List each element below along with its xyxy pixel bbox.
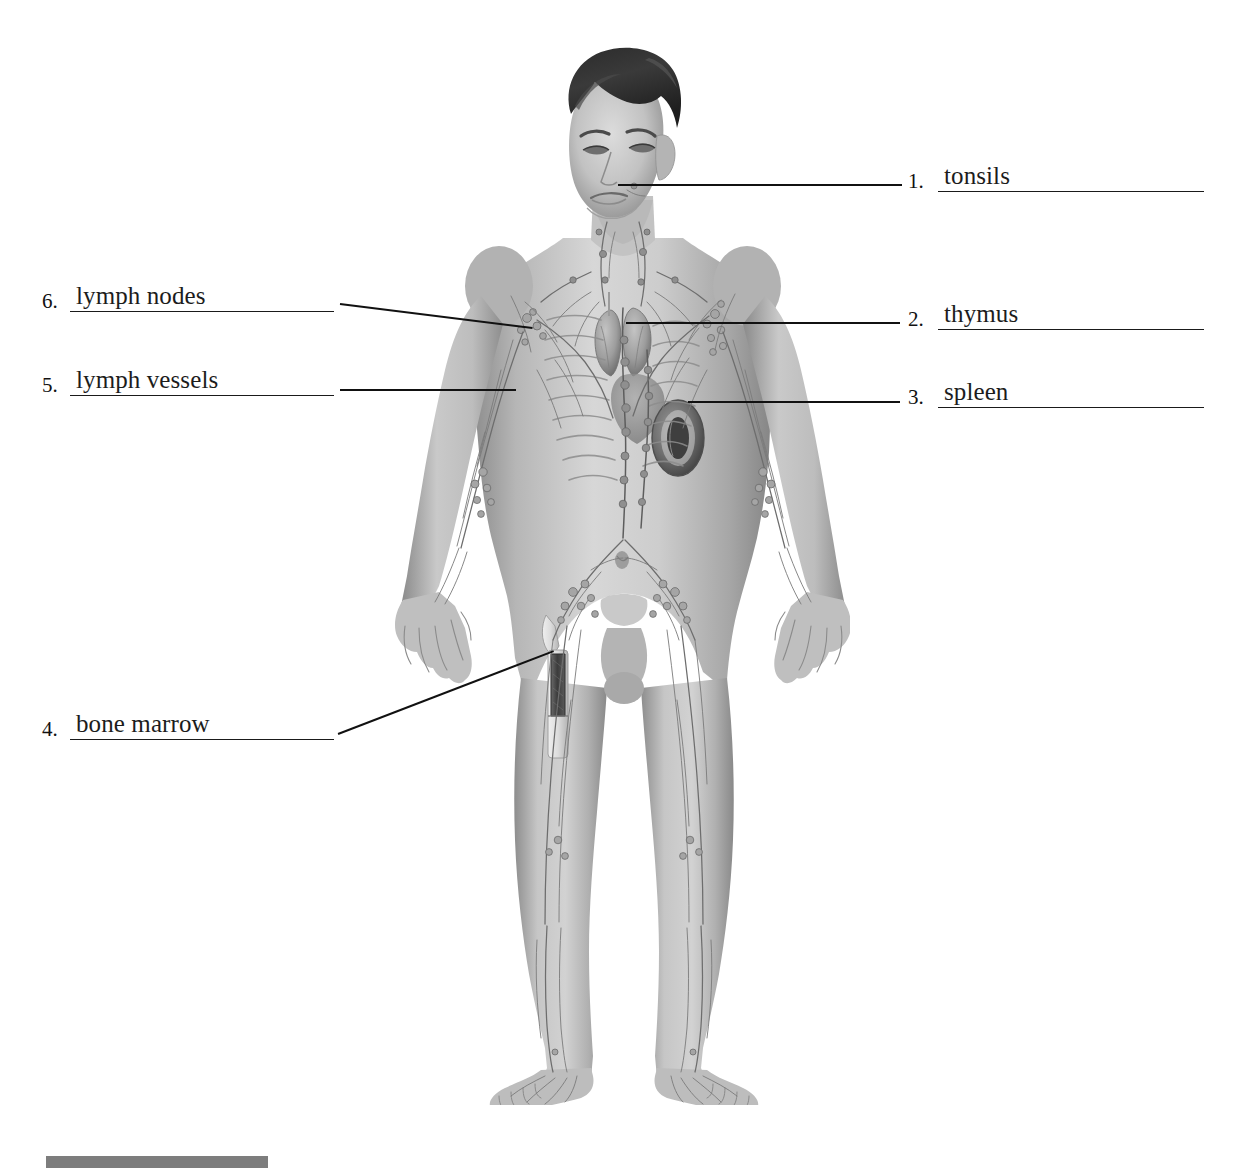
leader-line-thymus [626, 322, 900, 324]
label-number-3: 3. [908, 387, 924, 408]
page-footer-bar [46, 1156, 268, 1168]
answer-text-thymus: thymus [944, 301, 1018, 326]
leader-line-tonsils [618, 184, 902, 186]
leader-line-spleen [688, 401, 900, 403]
worksheet-page: .v { fill:none; stroke:#6d6d6d; stroke-w… [0, 0, 1246, 1168]
answer-line-3[interactable]: spleen [938, 373, 1204, 408]
label-number-2: 2. [908, 309, 924, 330]
answer-line-5[interactable]: lymph vessels [70, 361, 334, 396]
answer-text-bone-marrow: bone marrow [76, 711, 210, 736]
answer-text-tonsils: tonsils [944, 163, 1010, 188]
leader-line-lymph-vessels [340, 389, 516, 391]
label-number-5: 5. [42, 375, 58, 396]
label-number-1: 1. [908, 171, 924, 192]
label-number-6: 6. [42, 291, 58, 312]
label-number-4: 4. [42, 719, 58, 740]
answer-line-2[interactable]: thymus [938, 295, 1204, 330]
answer-line-6[interactable]: lymph nodes [70, 277, 334, 312]
human-body-lymphatic-system-illustration: .v { fill:none; stroke:#6d6d6d; stroke-w… [395, 40, 850, 1105]
answer-text-lymph-vessels: lymph vessels [76, 367, 218, 392]
answer-line-1[interactable]: tonsils [938, 157, 1204, 192]
answer-line-4[interactable]: bone marrow [70, 705, 334, 740]
answer-text-spleen: spleen [944, 379, 1008, 404]
answer-text-lymph-nodes: lymph nodes [76, 283, 206, 308]
